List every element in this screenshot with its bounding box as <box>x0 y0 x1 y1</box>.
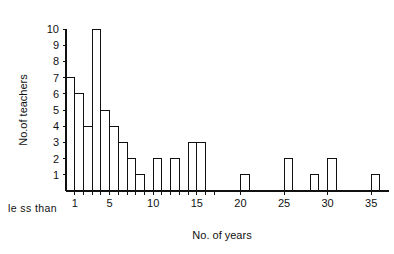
y-tick-label: 2 <box>53 153 59 165</box>
histogram-bar <box>66 78 75 191</box>
histogram-bar <box>110 126 119 191</box>
y-tick-label: 3 <box>53 136 59 148</box>
x-axis-title: No. of years <box>192 229 252 241</box>
x-axis-ticks <box>75 191 371 195</box>
y-tick-label: 5 <box>53 104 59 116</box>
histogram-bar <box>171 159 180 191</box>
x-axis-tick-labels: 15101520253035 <box>72 197 378 209</box>
x-tick-label: 20 <box>234 197 246 209</box>
histogram-bar <box>101 110 110 191</box>
x-tick-label: 5 <box>107 197 113 209</box>
histogram-bar <box>118 142 127 191</box>
less-than-annotation: le ss than <box>8 202 57 214</box>
y-tick-label: 1 <box>53 169 59 181</box>
bar-series <box>66 29 380 191</box>
x-tick-label: 1 <box>72 197 78 209</box>
histogram-bar <box>371 175 380 191</box>
chart-canvas: 12345678910 15101520253035 No.of teacher… <box>0 0 394 254</box>
y-tick-label: 7 <box>53 72 59 84</box>
y-axis-tick-labels: 12345678910 <box>47 23 59 181</box>
histogram-bar <box>240 175 249 191</box>
y-tick-label: 8 <box>53 55 59 67</box>
x-tick-label: 15 <box>191 197 203 209</box>
histogram-bar <box>83 126 92 191</box>
x-tick-label: 10 <box>147 197 159 209</box>
histogram-bar <box>188 142 197 191</box>
histogram-bar <box>136 175 145 191</box>
histogram-bar <box>197 142 206 191</box>
y-tick-label: 6 <box>53 88 59 100</box>
y-tick-label: 10 <box>47 23 59 35</box>
histogram-bar <box>92 29 101 191</box>
x-tick-label: 25 <box>278 197 290 209</box>
x-tick-label: 30 <box>321 197 333 209</box>
histogram-chart: 12345678910 15101520253035 No.of teacher… <box>0 0 394 254</box>
histogram-bar <box>153 159 162 191</box>
histogram-bar <box>328 159 337 191</box>
histogram-bar <box>127 159 136 191</box>
y-axis-title: No.of teachers <box>17 74 29 146</box>
histogram-bar <box>75 94 84 191</box>
y-tick-label: 4 <box>53 120 59 132</box>
histogram-bar <box>310 175 319 191</box>
x-tick-label: 35 <box>365 197 377 209</box>
y-tick-label: 9 <box>53 39 59 51</box>
histogram-bar <box>284 159 293 191</box>
